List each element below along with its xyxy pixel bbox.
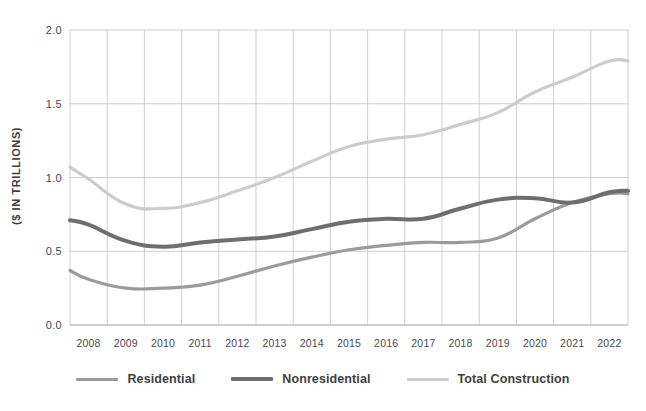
x-tick-label: 2016 xyxy=(366,337,406,349)
x-tick-label: 2014 xyxy=(292,337,332,349)
x-tick-label: 2015 xyxy=(329,337,369,349)
x-tick-label: 2018 xyxy=(441,337,481,349)
legend-label: Nonresidential xyxy=(282,372,370,386)
legend-line-residential xyxy=(76,378,118,381)
x-tick-label: 2020 xyxy=(515,337,555,349)
x-tick-label: 2011 xyxy=(180,337,220,349)
x-tick-label: 2021 xyxy=(552,337,592,349)
y-tick-label: 0.5 xyxy=(32,245,62,257)
plot-area xyxy=(0,0,646,411)
x-tick-label: 2019 xyxy=(478,337,518,349)
legend-label: Total Construction xyxy=(458,372,570,386)
x-tick-label: 2010 xyxy=(143,337,183,349)
x-tick-label: 2022 xyxy=(589,337,629,349)
y-tick-label: 2.0 xyxy=(32,24,62,36)
legend-item-residential[interactable]: Residential xyxy=(76,372,195,386)
y-tick-label: 0.0 xyxy=(32,319,62,331)
y-axis-title: ($ IN TRILLIONS) xyxy=(10,56,22,296)
legend-item-nonresidential[interactable]: Nonresidential xyxy=(231,372,370,386)
x-tick-label: 2013 xyxy=(255,337,295,349)
x-tick-label: 2012 xyxy=(217,337,257,349)
x-tick-label: 2009 xyxy=(106,337,146,349)
legend-line-nonresidential xyxy=(231,377,273,381)
x-tick-label: 2008 xyxy=(69,337,109,349)
grid-lines xyxy=(70,30,628,325)
legend-line-total xyxy=(407,378,449,381)
line-chart: ($ IN TRILLIONS) 0.00.51.01.52.0 2008200… xyxy=(0,0,646,411)
y-tick-label: 1.0 xyxy=(32,172,62,184)
series-line-total-construction xyxy=(70,59,628,209)
y-tick-label: 1.5 xyxy=(32,98,62,110)
legend-label: Residential xyxy=(127,372,195,386)
x-tick-label: 2017 xyxy=(403,337,443,349)
legend-item-total-construction[interactable]: Total Construction xyxy=(407,372,570,386)
series-line-nonresidential xyxy=(70,191,628,247)
chart-legend: ResidentialNonresidentialTotal Construct… xyxy=(0,372,646,386)
